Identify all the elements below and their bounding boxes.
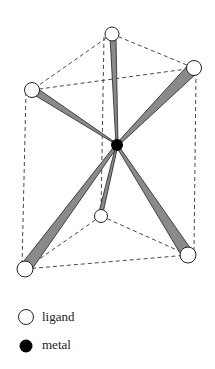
bond-bottom-right [116,145,193,258]
ligand-bottom-mid [95,210,108,223]
trigonal-prism-diagram [0,0,215,369]
ligand-bottom-left [17,261,33,277]
metal-ligand-bonds [20,37,198,272]
bond-top-back [110,37,118,145]
ligand-top-right [187,61,202,76]
bond-top-left [34,86,117,145]
legend-ligand-icon [19,310,34,325]
legend-ligand-label: ligand [42,309,75,325]
metal-atom [111,139,123,151]
bond-top-right [116,63,198,146]
ligand-top-back [105,27,119,41]
ligand-bottom-right [180,247,196,263]
legend-metal-label: metal [42,337,71,353]
ligand-top-left [25,83,40,98]
legend-metal-icon [20,340,33,353]
